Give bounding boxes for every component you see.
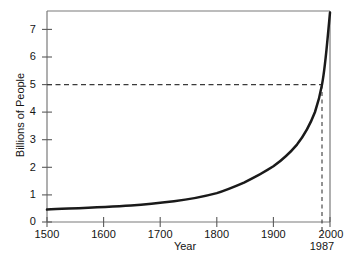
x-tick-label-2000: 2000 [311,228,351,240]
y-tick-label-0: 0 [22,215,36,227]
plot-frame [47,11,330,222]
x-tick-label-1700: 1700 [140,228,180,240]
marker-year-label: 1987 [302,240,342,252]
x-tick-label-1500: 1500 [27,228,67,240]
x-tick-label-1900: 1900 [253,228,293,240]
y-tick-label-1: 1 [22,188,36,200]
y-tick-label-7: 7 [22,23,36,35]
x-axis-title: Year [145,240,225,252]
population-growth-chart: 7 6 5 4 3 2 1 0 1500 1600 1700 1800 1900… [0,0,360,270]
x-tick-label-1800: 1800 [197,228,237,240]
population-curve [47,13,330,210]
y-axis-title: Billions of People [14,55,26,175]
x-tick-label-1600: 1600 [84,228,124,240]
